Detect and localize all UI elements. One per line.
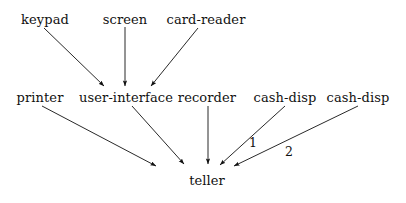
node-label-screen: screen	[103, 13, 148, 26]
edge-arrow-card-reader-to-user-interface	[151, 28, 198, 86]
edge-arrow-user-interface-to-teller	[132, 106, 184, 164]
node-label-cash-disp-2: cash-disp	[327, 91, 390, 104]
edge-label-cash-disp-1-to-teller: 1	[249, 137, 257, 150]
node-label-keypad: keypad	[21, 13, 69, 26]
node-label-printer: printer	[17, 91, 64, 104]
diagram-canvas: keypadscreencard-readerprinteruser-inter…	[0, 0, 406, 203]
node-label-user-interface: user-interface	[79, 91, 173, 104]
node-label-cash-disp-1: cash-disp	[254, 91, 317, 104]
edge-arrow-keypad-to-user-interface	[44, 28, 104, 86]
edge-arrow-printer-to-teller	[42, 106, 156, 166]
node-label-card-reader: card-reader	[167, 13, 246, 26]
node-label-teller: teller	[189, 174, 225, 187]
node-label-recorder: recorder	[178, 91, 236, 104]
edge-label-cash-disp-2-to-teller: 2	[285, 146, 293, 159]
